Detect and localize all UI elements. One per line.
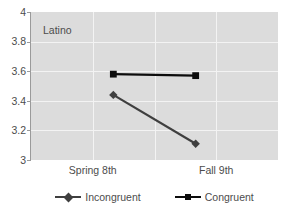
plot-area: Latino [31,12,278,160]
square-marker-icon [175,192,201,202]
x-tick-label: Fall 9th [199,163,233,177]
legend-item-incongruent[interactable]: Incongruent [55,191,140,203]
y-tick-label: 3.2 [2,125,26,135]
y-axis-tick [27,130,30,131]
gridline-vertical [93,12,94,160]
y-axis-labels: 4 3.8 3.6 3.4 3.2 3 [0,0,26,211]
y-tick-label: 4 [2,7,26,17]
y-axis-tick [27,101,30,102]
y-tick-label: 3.6 [2,66,26,76]
y-axis-tick [27,12,30,13]
x-tick-label: Spring 8th [69,163,117,177]
y-axis-tick [27,71,30,72]
y-tick-label: 3.8 [2,36,26,46]
chart-legend: Incongruent Congruent [31,188,278,206]
diamond-marker-icon [55,192,81,202]
legend-item-congruent[interactable]: Congruent [175,191,254,203]
y-axis-tick [27,160,30,161]
chart-group-label: Latino [43,24,72,36]
y-tick-label: 3.4 [2,96,26,106]
gridline-vertical [155,12,156,160]
legend-label: Congruent [205,191,254,203]
gridline-vertical [216,12,217,160]
y-tick-label: 3 [2,155,26,165]
x-axis-labels: Spring 8th Fall 9th [31,163,278,179]
line-chart: 4 3.8 3.6 3.4 3.2 3 Latino Spring 8th Fa… [0,0,287,211]
legend-label: Incongruent [85,191,140,203]
y-axis-tick [27,42,30,43]
